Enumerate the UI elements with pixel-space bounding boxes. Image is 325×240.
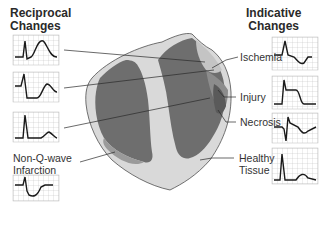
ecg-non-q-wave — [13, 175, 59, 201]
label-necrosis: Necrosis — [240, 116, 281, 128]
ecg-indicative-healthy — [272, 148, 318, 184]
ecg-indicative-injury — [272, 76, 318, 109]
label-ischemia: Ischemia — [240, 51, 282, 63]
label-healthy-line1: Healthy — [239, 152, 275, 164]
label-healthy-line2: Tissue — [239, 164, 275, 176]
label-injury: Injury — [240, 91, 266, 103]
ecg-reciprocal-necrosis — [13, 112, 59, 142]
label-non-q-wave-infarction: Non-Q-wave Infarction — [13, 152, 72, 176]
ecg-reciprocal-injury — [13, 72, 59, 102]
label-nonq-line1: Non-Q-wave — [13, 152, 72, 164]
label-nonq-line2: Infarction — [13, 164, 72, 176]
label-healthy-tissue: Healthy Tissue — [239, 152, 275, 176]
ecg-reciprocal-ischemia — [13, 35, 59, 65]
